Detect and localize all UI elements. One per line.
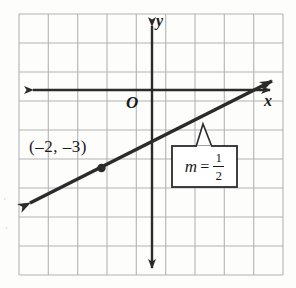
fraction-denominator: 2 <box>215 169 222 182</box>
slope-variable: m <box>185 157 197 177</box>
y-axis-label: y <box>156 12 163 30</box>
slope-fraction: 1 2 <box>213 151 224 182</box>
equals-sign: = <box>200 158 209 176</box>
slope-callout-text: m = 1 2 <box>172 146 237 187</box>
point-coordinate-label: (–2, –3) <box>29 137 87 157</box>
origin-label: O <box>126 93 138 113</box>
fraction-numerator: 1 <box>215 151 222 164</box>
coordinate-plane-figure: ʼ ʻ <box>0 0 296 288</box>
x-axis-label: x <box>264 92 272 110</box>
